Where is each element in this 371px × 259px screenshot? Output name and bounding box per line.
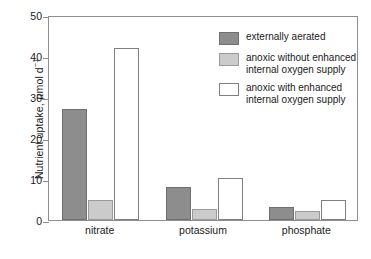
x-axis-label-phosphate: phosphate xyxy=(282,224,331,236)
legend-item-1[interactable]: anoxic without enhanced internal oxygen … xyxy=(219,52,367,75)
y-axis-tick-mark xyxy=(43,181,49,182)
y-axis-tick-labels: 01020304050 xyxy=(0,16,42,221)
bar-potassium-series-2 xyxy=(218,178,243,220)
bar-phosphate-series-2 xyxy=(321,200,346,220)
legend-label-1: anoxic without enhanced internal oxygen … xyxy=(246,52,356,75)
bar-phosphate-series-1 xyxy=(295,211,320,220)
legend-swatch-icon-0 xyxy=(219,32,239,45)
bar-potassium-series-1 xyxy=(192,209,217,220)
x-axis-label-nitrate: nitrate xyxy=(85,224,114,236)
legend: externally aeratedanoxic without enhance… xyxy=(219,31,367,112)
bar-nitrate-series-2 xyxy=(114,48,139,220)
legend-item-0[interactable]: externally aerated xyxy=(219,31,367,45)
y-axis-tick-label: 40 xyxy=(2,57,42,58)
bar-nitrate-series-1 xyxy=(88,200,113,221)
legend-swatch-icon-1 xyxy=(219,53,239,66)
legend-swatch-icon-2 xyxy=(219,83,239,96)
y-axis-tick-mark xyxy=(43,222,49,223)
y-axis-tick-mark xyxy=(43,140,49,141)
bar-potassium-series-0 xyxy=(166,187,191,220)
y-axis-tick-label: 50 xyxy=(2,16,42,17)
y-axis-tick-mark xyxy=(43,58,49,59)
x-axis-tick-labels: nitratepotassiumphosphate xyxy=(48,224,358,244)
y-axis-tick-mark xyxy=(43,17,49,18)
legend-label-0: externally aerated xyxy=(246,31,326,43)
y-axis-tick-label: 0 xyxy=(2,221,42,222)
legend-item-2[interactable]: anoxic with enhanced internal oxygen sup… xyxy=(219,82,367,105)
bar-chart-figure: Nutrient uptake, μmol d−1 01020304050 ni… xyxy=(0,0,371,259)
y-axis-tick-label: 20 xyxy=(2,139,42,140)
x-axis-label-potassium: potassium xyxy=(179,224,227,236)
y-axis-tick-label: 10 xyxy=(2,180,42,181)
bar-phosphate-series-0 xyxy=(269,207,294,220)
legend-label-2: anoxic with enhanced internal oxygen sup… xyxy=(246,82,346,105)
bar-nitrate-series-0 xyxy=(62,109,87,220)
y-axis-tick-label: 30 xyxy=(2,98,42,99)
y-axis-tick-mark xyxy=(43,99,49,100)
